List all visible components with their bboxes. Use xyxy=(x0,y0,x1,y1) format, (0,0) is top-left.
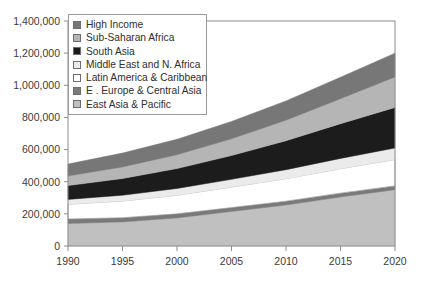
y-axis-ticks: 0200,000400,000600,000800,0001,000,0001,… xyxy=(13,15,68,252)
x-axis-ticks: 1990199520002005201020152020 xyxy=(56,246,407,267)
x-tick-label: 2015 xyxy=(329,255,353,267)
legend-swatch-icon xyxy=(73,47,81,55)
legend-item-label: Sub-Saharan Africa xyxy=(86,31,174,44)
x-tick-label: 2000 xyxy=(165,255,189,267)
legend-item-label: South Asia xyxy=(86,45,135,58)
legend-swatch-icon xyxy=(73,87,81,95)
legend-item-label: Middle East and N. Africa xyxy=(86,58,200,71)
legend-item: East Asia & Pacific xyxy=(73,98,202,111)
x-tick-label: 1995 xyxy=(111,255,135,267)
y-tick-label: 0 xyxy=(54,240,60,252)
x-tick-label: 2010 xyxy=(274,255,298,267)
x-tick-label: 2005 xyxy=(220,255,244,267)
legend-item: Latin America & Caribbean xyxy=(73,71,202,84)
legend-swatch-icon xyxy=(73,61,81,69)
y-tick-label: 1,200,000 xyxy=(13,47,60,59)
legend-swatch-icon xyxy=(73,34,81,42)
legend-swatch-icon xyxy=(73,21,81,29)
x-tick-label: 1990 xyxy=(56,255,80,267)
y-tick-label: 600,000 xyxy=(22,143,60,155)
chart-legend: High IncomeSub-Saharan AfricaSouth AsiaM… xyxy=(68,14,207,115)
legend-item: Sub-Saharan Africa xyxy=(73,31,202,44)
y-tick-label: 800,000 xyxy=(22,111,60,123)
chart-canvas: 0200,000400,000600,000800,0001,000,0001,… xyxy=(0,0,422,281)
legend-swatch-icon xyxy=(73,74,81,82)
legend-item-label: High Income xyxy=(86,18,143,31)
y-tick-label: 1,400,000 xyxy=(13,15,60,27)
legend-item: Middle East and N. Africa xyxy=(73,58,202,71)
y-tick-label: 200,000 xyxy=(22,208,60,220)
x-tick-label: 2020 xyxy=(383,255,407,267)
legend-item-label: Latin America & Caribbean xyxy=(86,71,207,84)
legend-swatch-icon xyxy=(73,100,81,108)
legend-item: E . Europe & Central Asia xyxy=(73,84,202,97)
y-tick-label: 1,000,000 xyxy=(13,79,60,91)
legend-item: South Asia xyxy=(73,45,202,58)
legend-item: High Income xyxy=(73,18,202,31)
y-tick-label: 400,000 xyxy=(22,176,60,188)
stacked-area-chart: 0200,000400,000600,000800,0001,000,0001,… xyxy=(0,0,422,281)
legend-item-label: E . Europe & Central Asia xyxy=(86,84,202,97)
legend-item-label: East Asia & Pacific xyxy=(86,98,171,111)
